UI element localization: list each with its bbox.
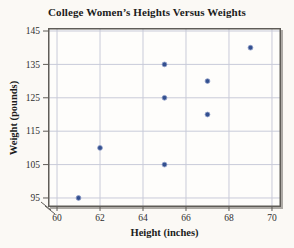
data-point	[205, 79, 210, 84]
x-tick-label: 60	[52, 213, 62, 223]
y-axis-label: Weight (pounds)	[8, 81, 19, 155]
data-point	[98, 145, 103, 150]
y-tick-label: 95	[31, 193, 41, 203]
y-tick-label: 145	[26, 26, 41, 36]
x-tick-label: 64	[138, 213, 148, 223]
chart-figure: College Women’s Heights Versus Weights W…	[0, 0, 294, 248]
plot-frame	[49, 29, 281, 207]
axis-break-icon	[45, 206, 55, 214]
data-point	[162, 162, 167, 167]
scatter-plot: 60626466687095105115125135145	[48, 28, 281, 207]
x-tick-label: 68	[224, 213, 234, 223]
plot-area: 60626466687095105115125135145	[48, 28, 281, 207]
x-axis-label: Height (inches)	[48, 227, 281, 238]
y-tick-label: 135	[26, 60, 41, 70]
data-point	[76, 196, 81, 201]
data-point	[205, 112, 210, 117]
chart-title: College Women’s Heights Versus Weights	[0, 6, 294, 18]
y-tick-label: 105	[26, 160, 41, 170]
y-tick-label: 125	[26, 93, 41, 103]
data-point	[162, 62, 167, 67]
x-tick-label: 70	[267, 213, 277, 223]
x-tick-label: 62	[95, 213, 105, 223]
y-tick-label: 115	[26, 126, 40, 136]
data-point	[162, 95, 167, 100]
x-tick-label: 66	[181, 213, 191, 223]
data-point	[248, 45, 253, 50]
